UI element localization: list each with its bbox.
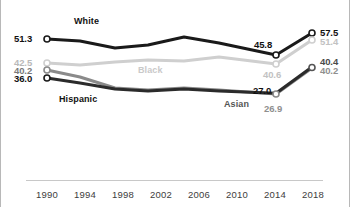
marker-hispanic-2018 <box>309 65 315 71</box>
series-label-black: Black <box>138 66 163 75</box>
series-label-white: White <box>74 17 99 26</box>
value-label-hispanic-1990: 36.0 <box>14 74 32 84</box>
x-tick-2002: 2002 <box>141 189 181 200</box>
value-label-black-2018: 51.4 <box>320 37 338 47</box>
marker-black-2014 <box>273 61 279 67</box>
x-tick-1994: 1994 <box>65 189 105 200</box>
value-label-black-2014: 40.6 <box>263 70 281 80</box>
x-tick-1990: 1990 <box>27 189 67 200</box>
line-chart-plot <box>1 0 350 207</box>
value-label-white-1990: 51.3 <box>14 34 32 44</box>
chart-container: 51.3 42.5 40.2 36.0 45.8 40.6 27.0 26.9 … <box>0 0 350 207</box>
series-line-white <box>47 33 312 55</box>
series-label-hispanic: Hispanic <box>59 95 97 104</box>
value-label-asian-2014: 26.9 <box>264 104 282 114</box>
marker-hispanic-1990 <box>44 75 50 81</box>
marker-white-2018 <box>309 30 315 36</box>
value-label-white-2014: 45.8 <box>254 40 272 50</box>
x-tick-2010: 2010 <box>217 189 257 200</box>
value-label-asian-2018: 40.2 <box>320 66 338 76</box>
series-label-asian: Asian <box>224 100 249 109</box>
x-tick-2018: 2018 <box>293 189 333 200</box>
marker-white-2014 <box>273 52 279 58</box>
marker-black-1990 <box>44 60 50 66</box>
marker-asian-2014 <box>273 91 279 97</box>
marker-black-2018 <box>309 37 315 43</box>
x-tick-2014: 2014 <box>255 189 295 200</box>
marker-white-1990 <box>44 36 50 42</box>
x-tick-1998: 1998 <box>103 189 143 200</box>
x-tick-2006: 2006 <box>179 189 219 200</box>
marker-asian-1990 <box>44 67 50 73</box>
value-label-hispanic-2014: 27.0 <box>253 86 271 96</box>
